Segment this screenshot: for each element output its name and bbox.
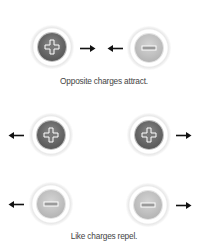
plus-icon [37, 121, 65, 149]
minus-icon [135, 34, 163, 62]
plus-icon [135, 121, 163, 149]
arrow-left-icon [107, 44, 123, 53]
negative-charge [29, 182, 73, 226]
positive-charge [29, 113, 73, 157]
arrow-right-icon [176, 131, 192, 140]
positive-core [37, 121, 65, 149]
positive-core [38, 33, 66, 61]
positive-charge [30, 25, 74, 69]
negative-core [37, 190, 65, 218]
negative-core [134, 191, 162, 219]
minus-icon [37, 190, 65, 218]
attract-caption: Opposite charges attract. [8, 76, 199, 86]
negative-charge [126, 183, 170, 227]
arrow-left-icon [8, 131, 24, 140]
positive-charge [127, 113, 171, 157]
arrow-left-icon [8, 200, 24, 209]
plus-icon [38, 33, 66, 61]
negative-charge [127, 26, 171, 70]
minus-icon [134, 191, 162, 219]
arrow-right-icon [176, 201, 192, 210]
arrow-right-icon [80, 44, 96, 53]
positive-core [135, 121, 163, 149]
negative-core [135, 34, 163, 62]
repel-caption: Like charges repel. [8, 231, 199, 241]
